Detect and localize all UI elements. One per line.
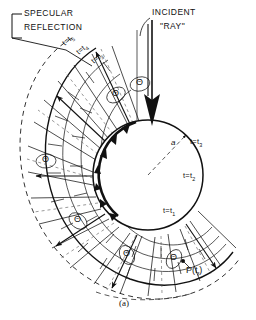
diagram-canvas: [0, 0, 256, 320]
radius-label: a: [171, 139, 175, 147]
specular-reflection-label-line2: REFLECTION: [24, 23, 82, 32]
time-label-right-0: t=t3: [190, 138, 202, 148]
time-label-right-1: t=t2: [183, 172, 195, 182]
figure-specular-reflection-diagram: SPECULAR REFLECTION INCIDENT "RAY" t=t5 …: [0, 0, 256, 320]
bottom-dashed-tail: [96, 292, 190, 300]
incident-ray: [144, 20, 160, 126]
theta-symbol-4: Θ: [123, 249, 130, 258]
theta-symbol-5: Θ: [170, 253, 177, 262]
time-label-right-2: t=t1: [163, 207, 175, 217]
incident-ray-label-line2: "RAY": [160, 22, 185, 31]
specular-reflection-label-line1: SPECULAR: [24, 9, 73, 18]
theta-symbol-0: Θ: [136, 78, 143, 87]
figure-caption: (a): [119, 299, 129, 308]
theta-symbol-1: Θ: [112, 89, 119, 98]
theta-symbol-2: Θ: [42, 155, 49, 164]
theta-symbol-3: Θ: [74, 215, 81, 224]
incident-ray-label-line1: INCIDENT: [152, 8, 196, 17]
point-pf-label: P(tf): [186, 266, 202, 277]
